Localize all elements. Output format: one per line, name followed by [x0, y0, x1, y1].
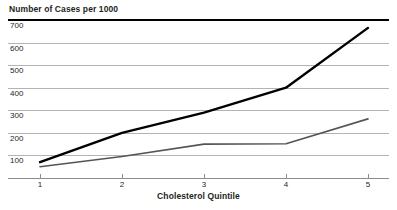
x-axis-tick — [40, 174, 41, 179]
plot-area — [8, 20, 389, 178]
x-axis-title: Cholesterol Quintile — [0, 191, 397, 201]
x-axis-tick — [286, 174, 287, 179]
gridline — [8, 88, 389, 89]
x-axis-label: 3 — [194, 180, 214, 190]
gridline — [8, 133, 389, 134]
y-axis-label: 400 — [10, 89, 23, 98]
chart-container: Number of Cases per 1000 Cholesterol Qui… — [0, 0, 397, 210]
x-axis-tick — [204, 174, 205, 179]
gridline — [8, 155, 389, 156]
x-axis-label: 1 — [30, 180, 50, 190]
y-axis-label: 100 — [10, 156, 23, 165]
gridline — [8, 43, 389, 44]
x-axis-tick — [368, 174, 369, 179]
y-axis-label: 200 — [10, 134, 23, 143]
x-axis-line — [8, 178, 389, 179]
chart-title: Number of Cases per 1000 — [9, 4, 118, 14]
x-axis-label: 5 — [358, 180, 378, 190]
y-axis-label: 600 — [10, 44, 23, 53]
x-axis-tick — [122, 174, 123, 179]
gridline — [8, 65, 389, 66]
x-axis-label: 2 — [112, 180, 132, 190]
x-axis-label: 4 — [276, 180, 296, 190]
y-axis-label: 500 — [10, 66, 23, 75]
y-axis-label: 300 — [10, 111, 23, 120]
y-axis-label: 700 — [10, 21, 23, 30]
gridline — [8, 110, 389, 111]
